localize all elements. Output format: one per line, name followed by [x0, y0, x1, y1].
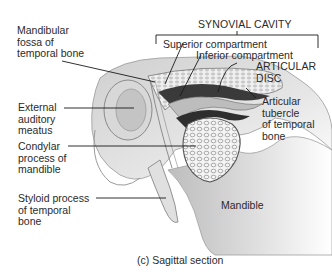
label-styloid-process: Styloid process of temporal bone — [18, 193, 89, 228]
figure-caption: (c) Sagittal section — [137, 255, 223, 267]
label-external-auditory-meatus: External auditory meatus — [18, 102, 57, 137]
label-articular-tubercle: Articular tubercle of temporal bone — [262, 96, 315, 142]
label-mandible: Mandible — [221, 200, 264, 212]
label-condylar-process: Condylar process of mandible — [18, 141, 66, 176]
label-articular-disc: ARTICULAR DISC — [256, 61, 316, 84]
label-mandibular-fossa: Mandibular fossa of temporal bone — [17, 25, 84, 60]
label-synovial-cavity: SYNOVIAL CAVITY — [198, 19, 292, 31]
